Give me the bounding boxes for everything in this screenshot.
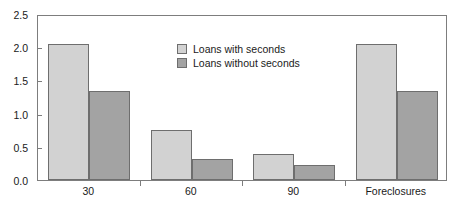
x-axis-tick-mark: [345, 181, 346, 186]
x-axis-tick-mark: [140, 181, 141, 186]
bar: [48, 44, 89, 180]
y-axis-tick-mark: [37, 148, 42, 149]
legend-swatch-icon: [177, 58, 187, 68]
x-axis-tick-label: 30: [82, 186, 94, 197]
x-axis-tick-label: 90: [287, 186, 299, 197]
y-axis-tick-mark: [37, 81, 42, 82]
bar: [151, 130, 192, 180]
legend-label: Loans without seconds: [193, 58, 300, 69]
y-axis-tick-label: 0.5: [13, 143, 28, 153]
y-axis-tick-label: 2.5: [13, 10, 28, 20]
legend-item: Loans with seconds: [177, 43, 300, 55]
y-axis-tick-mark: [37, 48, 42, 49]
y-axis-tick-label: 1.0: [13, 110, 28, 120]
y-axis-tick-mark: [37, 115, 42, 116]
legend-label: Loans with seconds: [193, 44, 285, 55]
legend-item: Loans without seconds: [177, 57, 300, 69]
bar: [356, 44, 397, 180]
legend-swatch-icon: [177, 44, 187, 54]
y-axis-tick-label: 2.0: [13, 43, 28, 53]
y-axis-tick-label: 0.0: [13, 176, 28, 186]
bar: [397, 91, 438, 180]
x-axis-tick-label: Foreclosures: [365, 186, 426, 197]
bar: [89, 91, 130, 180]
bar: [294, 165, 335, 180]
x-axis: 306090Foreclosures: [37, 186, 447, 208]
y-axis: 0.00.51.01.52.02.5: [0, 0, 37, 213]
chart-figure: 0.00.51.01.52.02.5 Loans with secondsLoa…: [0, 0, 456, 213]
chart-legend: Loans with secondsLoans without seconds: [177, 43, 300, 69]
plot-area: Loans with secondsLoans without seconds: [37, 15, 447, 181]
bar: [253, 154, 294, 180]
bar: [192, 159, 233, 180]
x-axis-tick-mark: [242, 181, 243, 186]
x-axis-tick-label: 60: [185, 186, 197, 197]
cropped-title-region: [0, 0, 456, 6]
y-axis-tick-label: 1.5: [13, 76, 28, 86]
